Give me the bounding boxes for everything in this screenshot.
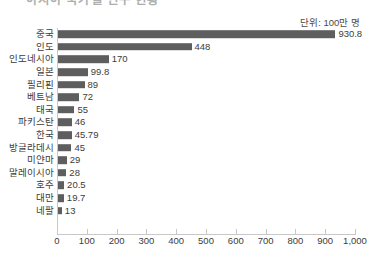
category-label: 인도	[36, 42, 54, 52]
bar	[58, 156, 67, 164]
x-tick-mark	[206, 229, 207, 234]
category-label: 필리핀	[27, 80, 54, 90]
bar	[58, 182, 64, 190]
category-label: 한국	[36, 130, 54, 140]
bar-value-label: 29	[70, 155, 81, 165]
category-label: 인도네시아	[9, 55, 54, 65]
category-label: 일본	[36, 67, 54, 77]
category-label: 방글라데시	[9, 143, 54, 153]
x-tick-label: 100	[79, 236, 95, 246]
category-label: 태국	[36, 105, 54, 115]
bar-value-label: 19.7	[67, 193, 86, 203]
x-tick-label: 700	[258, 236, 274, 246]
x-tick-label: 200	[109, 236, 125, 246]
x-tick-mark	[176, 229, 177, 234]
x-tick-label: 900	[317, 236, 333, 246]
bar-row: 인도448	[0, 41, 366, 54]
x-tick-label: 500	[198, 236, 214, 246]
x-tick-mark	[236, 229, 237, 234]
bar-value-label: 45	[74, 143, 85, 153]
chart-title-text: 아시아 국가별 인구 현황	[26, 0, 159, 8]
category-label: 대만	[36, 193, 54, 203]
x-tick-label: 400	[168, 236, 184, 246]
category-label: 말레이시아	[9, 168, 54, 178]
x-tick-mark	[355, 229, 356, 234]
bar-value-label: 448	[195, 42, 211, 52]
bar-value-label: 13	[65, 206, 76, 216]
bar	[58, 31, 335, 39]
bar-row: 태국55	[0, 104, 366, 117]
bar	[58, 169, 66, 177]
bar-row: 인도네시아170	[0, 53, 366, 66]
bar-row: 중국930.8	[0, 28, 366, 41]
bar-row: 파키스탄46	[0, 116, 366, 129]
bar	[58, 119, 72, 127]
bar-row: 호주20.5	[0, 179, 366, 192]
bar-value-label: 930.8	[338, 30, 362, 40]
bar-value-label: 89	[88, 80, 99, 90]
bar-value-label: 99.8	[91, 67, 110, 77]
bar-value-label: 46	[75, 118, 86, 128]
x-tick-label: 1,000	[343, 236, 367, 246]
bar-row: 한국45.79	[0, 129, 366, 142]
category-label: 네팔	[36, 206, 54, 216]
x-axis-ticks: 01002003004005006007008009001,000	[0, 235, 366, 257]
category-label: 베트남	[27, 93, 54, 103]
bar-row: 미얀마29	[0, 154, 366, 167]
bar	[58, 194, 64, 202]
bar-value-label: 72	[82, 93, 93, 103]
x-tick-label: 0	[54, 236, 59, 246]
bar-value-label: 55	[77, 105, 88, 115]
bar-rows: 중국930.8인도448인도네시아170일본99.8필리핀89베트남72태국55…	[0, 28, 366, 232]
bar-row: 방글라데시45	[0, 141, 366, 154]
bar-row: 대만19.7	[0, 192, 366, 205]
bar	[58, 56, 109, 64]
bar	[58, 106, 74, 114]
chart-title-clipped: 아시아 국가별 인구 현황	[0, 0, 366, 9]
x-tick-mark	[295, 229, 296, 234]
bar-row: 네팔13	[0, 204, 366, 217]
plot-area: 중국930.8인도448인도네시아170일본99.8필리핀89베트남72태국55…	[0, 28, 366, 235]
x-tick-label: 800	[287, 236, 303, 246]
bar-row: 말레이시아28	[0, 167, 366, 180]
category-label: 파키스탄	[18, 118, 54, 128]
x-tick-label: 300	[138, 236, 154, 246]
category-label: 중국	[36, 30, 54, 40]
x-tick-mark	[266, 229, 267, 234]
bar	[58, 43, 192, 51]
bar-value-label: 28	[69, 168, 80, 178]
bar	[58, 81, 85, 89]
x-tick-mark	[117, 229, 118, 234]
x-tick-label: 600	[228, 236, 244, 246]
bar	[58, 207, 62, 215]
bar	[58, 93, 79, 101]
category-label: 미얀마	[27, 155, 54, 165]
x-tick-mark	[87, 229, 88, 234]
bar	[58, 68, 88, 76]
bar-row: 일본99.8	[0, 66, 366, 79]
bar-row: 베트남72	[0, 91, 366, 104]
x-tick-mark	[325, 229, 326, 234]
bar	[58, 144, 71, 152]
x-tick-mark	[146, 229, 147, 234]
unit-annotation: 단위: 100만 명	[300, 15, 360, 29]
bar-value-label: 170	[112, 55, 128, 65]
category-label: 호주	[36, 181, 54, 191]
bar	[58, 131, 72, 139]
bar-row: 필리핀89	[0, 78, 366, 91]
bar-value-label: 45.79	[75, 130, 99, 140]
bar-value-label: 20.5	[67, 181, 86, 191]
x-tick-mark	[57, 229, 58, 234]
